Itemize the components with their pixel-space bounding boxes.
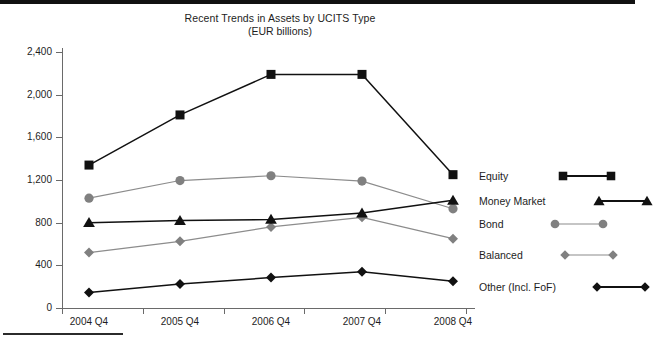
circle-marker xyxy=(551,220,560,229)
diamond-marker xyxy=(175,279,185,289)
diamond-marker xyxy=(608,250,618,260)
legend-item-label: Bond xyxy=(479,217,504,231)
square-marker xyxy=(358,70,367,79)
legend-key-glyph xyxy=(591,194,657,208)
square-marker xyxy=(85,161,94,170)
legend-item-label: Equity xyxy=(479,169,508,183)
legend-key-glyph xyxy=(547,217,615,231)
legend-item-label: Balanced xyxy=(479,248,523,262)
diamond-marker xyxy=(266,273,276,283)
circle-marker xyxy=(448,204,457,213)
diamond-marker xyxy=(175,236,185,246)
diamond-marker xyxy=(84,288,94,298)
square-marker xyxy=(559,172,568,181)
circle-marker xyxy=(175,176,184,185)
series-line xyxy=(89,74,453,174)
triangle-marker xyxy=(447,195,459,205)
legend-item-key xyxy=(589,280,657,294)
chart-legend: EquityMoney MarketBondBalancedOther (Inc… xyxy=(479,169,635,294)
square-marker xyxy=(449,170,458,179)
legend-item-key xyxy=(547,217,615,231)
legend-key-glyph xyxy=(555,169,623,183)
diamond-marker xyxy=(84,248,94,258)
circle-marker xyxy=(599,220,608,229)
diamond-marker xyxy=(640,282,650,292)
square-marker xyxy=(607,172,616,181)
legend-item-label: Money Market xyxy=(479,194,546,208)
series-other-incl-fof xyxy=(84,267,458,298)
footnote-divider xyxy=(3,333,123,335)
legend-item-label: Other (Incl. FoF) xyxy=(479,280,556,294)
diamond-marker xyxy=(448,234,458,244)
legend-key-glyph xyxy=(589,280,657,294)
legend-item-key xyxy=(555,169,623,183)
circle-marker xyxy=(266,171,275,180)
square-marker xyxy=(267,70,276,79)
diamond-marker xyxy=(592,282,602,292)
series-money-market xyxy=(83,195,459,227)
circle-marker xyxy=(84,194,93,203)
legend-key-glyph xyxy=(557,248,625,262)
diamond-marker xyxy=(357,267,367,277)
legend-item-key xyxy=(591,194,657,208)
series-line xyxy=(89,176,453,209)
diamond-marker xyxy=(448,276,458,286)
legend-item-key xyxy=(557,248,625,262)
diamond-marker xyxy=(560,250,570,260)
series-equity xyxy=(85,70,458,179)
square-marker xyxy=(176,110,185,119)
circle-marker xyxy=(357,176,366,185)
